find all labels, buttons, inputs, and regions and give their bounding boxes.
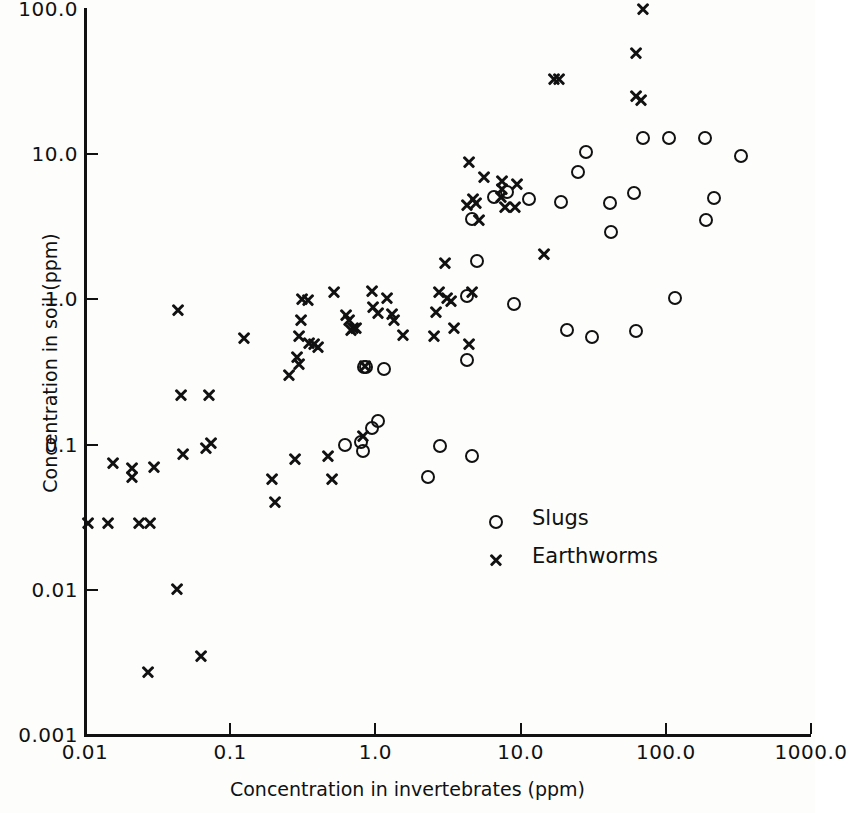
data-point-earthworm xyxy=(464,284,480,300)
data-point-earthworm xyxy=(439,290,455,306)
data-point-slug xyxy=(470,254,484,268)
data-point-earthworm xyxy=(341,312,357,328)
data-point-slug xyxy=(507,297,521,311)
y-tick xyxy=(87,444,98,446)
data-point-earthworm xyxy=(536,246,552,262)
data-point-earthworm xyxy=(142,515,158,531)
data-point-slug xyxy=(465,449,479,463)
data-point-earthworm xyxy=(343,322,359,338)
data-point-earthworm xyxy=(131,515,147,531)
y-tick xyxy=(87,734,98,736)
y-tick xyxy=(87,589,98,591)
data-point-slug xyxy=(579,145,593,159)
x-axis-title: Concentration in invertebrates (ppm) xyxy=(0,778,815,800)
data-point-earthworm xyxy=(324,471,340,487)
data-point-earthworm xyxy=(345,320,361,336)
x-tick xyxy=(665,723,667,734)
data-point-slug xyxy=(421,470,435,484)
y-tick xyxy=(87,153,98,155)
legend-circle-icon xyxy=(487,513,505,531)
data-point-earthworm xyxy=(465,191,481,207)
data-point-earthworm xyxy=(173,387,189,403)
data-point-slug xyxy=(522,192,536,206)
data-point-slug xyxy=(460,289,474,303)
legend-label-earthworms: Earthworms xyxy=(532,544,658,568)
data-point-slug xyxy=(668,291,682,305)
data-point-slug xyxy=(560,323,574,337)
data-point-earthworm xyxy=(471,212,487,228)
data-point-earthworm xyxy=(320,448,336,464)
data-point-earthworm xyxy=(461,154,477,170)
data-point-earthworm xyxy=(476,169,492,185)
data-point-earthworm xyxy=(175,446,191,462)
data-point-earthworm xyxy=(264,471,280,487)
data-point-earthworm xyxy=(494,173,510,189)
data-point-earthworm xyxy=(379,290,395,306)
data-point-earthworm xyxy=(431,284,447,300)
data-point-earthworm xyxy=(428,304,444,320)
x-tick-label: 0.01 xyxy=(25,740,145,764)
data-point-slug xyxy=(629,324,643,338)
data-point-earthworm xyxy=(628,88,644,104)
data-point-earthworm xyxy=(459,197,475,213)
data-point-slug xyxy=(354,435,368,449)
legend-cross-icon xyxy=(487,551,505,569)
data-point-earthworm xyxy=(635,1,651,17)
data-point-earthworm xyxy=(386,312,402,328)
data-point-earthworm xyxy=(124,460,140,476)
data-point-slug xyxy=(365,421,379,435)
x-tick-label: 100.0 xyxy=(606,740,726,764)
data-point-earthworm xyxy=(105,455,121,471)
data-point-earthworm xyxy=(198,440,214,456)
data-point-earthworm xyxy=(365,299,381,315)
y-axis-title: Concentration in soil (ppm) xyxy=(39,143,61,583)
data-point-earthworm xyxy=(497,199,513,215)
data-point-earthworm xyxy=(306,336,322,352)
x-tick xyxy=(84,723,86,734)
data-point-earthworm xyxy=(281,367,297,383)
data-point-slug xyxy=(604,225,618,239)
data-point-slug xyxy=(487,190,501,204)
data-point-earthworm xyxy=(236,330,252,346)
data-point-earthworm xyxy=(289,349,305,365)
data-point-earthworm xyxy=(551,71,567,87)
data-point-earthworm xyxy=(146,459,162,475)
data-point-slug xyxy=(627,186,641,200)
data-point-slug xyxy=(698,131,712,145)
data-point-earthworm xyxy=(633,92,649,108)
data-point-earthworm xyxy=(169,581,185,597)
data-point-earthworm xyxy=(426,328,442,344)
data-point-earthworm xyxy=(357,358,373,374)
data-point-earthworm xyxy=(355,428,371,444)
data-point-earthworm xyxy=(100,515,116,531)
data-point-earthworm xyxy=(446,320,462,336)
data-point-earthworm xyxy=(294,291,310,307)
data-point-earthworm xyxy=(443,293,459,309)
data-point-slug xyxy=(554,195,568,209)
data-point-earthworm xyxy=(170,302,186,318)
data-point-slug xyxy=(433,439,447,453)
x-tick-label: 1.0 xyxy=(315,740,435,764)
data-point-earthworm xyxy=(300,292,316,308)
data-point-earthworm xyxy=(494,181,510,197)
data-point-earthworm xyxy=(468,195,484,211)
x-tick-label: 1000.0 xyxy=(751,740,851,764)
data-point-earthworm xyxy=(326,284,342,300)
data-point-earthworm xyxy=(507,199,523,215)
x-tick-label: 0.1 xyxy=(170,740,290,764)
x-tick xyxy=(810,723,812,734)
data-point-slug xyxy=(356,444,370,458)
data-point-earthworm xyxy=(193,648,209,664)
data-point-slug xyxy=(460,353,474,367)
data-point-earthworm xyxy=(124,469,140,485)
data-point-earthworm xyxy=(493,189,509,205)
y-tick-label: 100.0 xyxy=(18,0,78,21)
y-tick xyxy=(87,298,98,300)
data-point-earthworm xyxy=(291,356,307,372)
data-point-earthworm xyxy=(203,435,219,451)
data-point-earthworm xyxy=(628,45,644,61)
data-point-earthworm xyxy=(437,255,453,271)
data-point-earthworm xyxy=(287,451,303,467)
data-point-slug xyxy=(500,185,514,199)
data-point-slug xyxy=(357,360,371,374)
